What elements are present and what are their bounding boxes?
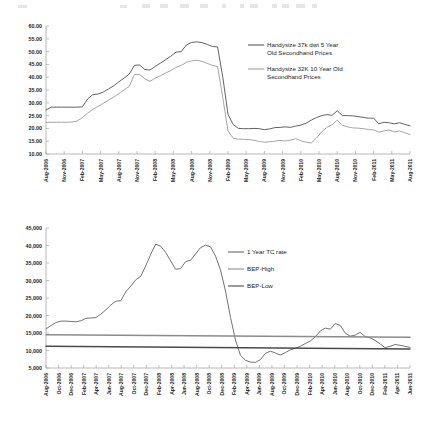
x-axis-tick-label: Jun-2008	[181, 373, 187, 395]
x-axis-tick-label: Feb-2008	[156, 373, 162, 395]
toolbar-icon-fragment	[222, 4, 226, 8]
y-axis-tick-label: 40,000	[26, 243, 43, 249]
x-axis-tick-label: Aug-2010	[334, 159, 340, 182]
x-axis-tick-label: Aug-2011	[407, 159, 413, 182]
y-axis-tick-label: 30,000	[26, 278, 43, 284]
x-axis-tick-label: May-2011	[389, 159, 395, 182]
x-axis-tick-label: Nov-2007	[134, 159, 140, 182]
partial-toolbar-strip	[0, 0, 430, 9]
y-axis-tick-label: 30.00	[29, 100, 43, 106]
x-axis-tick-label: Nov-2010	[352, 159, 358, 182]
x-axis-tick-label: Apr-2009	[244, 373, 250, 395]
x-axis-tick-label: Aug-2006	[43, 373, 49, 396]
toolbar-icon-fragment	[312, 4, 317, 8]
x-axis-tick-label: Aug-2007	[116, 159, 122, 182]
y-axis-tick-label: 15.00	[29, 138, 43, 144]
y-axis-tick-label: 5,000	[29, 365, 43, 371]
toolbar-icon-fragment	[142, 4, 150, 8]
x-axis-tick-label: Apr-2011	[394, 373, 400, 395]
toolbar-icon-fragment	[296, 4, 305, 8]
series-line-1	[46, 244, 410, 362]
y-axis-tick-label: 20.00	[29, 125, 43, 131]
chart-handysize-secondhand-prices: 10.0015.0020.0025.0030.0035.0040.0045.00…	[0, 14, 430, 218]
y-axis-tick-label: 40.00	[29, 74, 43, 80]
y-axis-tick-label: 20,000	[26, 313, 43, 319]
x-axis-tick-label: Apr-2007	[93, 373, 99, 395]
x-axis-tick-label: Dec-2009	[294, 373, 300, 396]
x-axis-tick-label: May-2009	[243, 159, 249, 182]
toolbar-icon-fragment	[160, 4, 168, 8]
legend-label-1: Handysize 37k dwt 5 Year	[267, 41, 338, 48]
y-axis-tick-label: 25.00	[29, 113, 43, 119]
x-axis-tick-label: Dec-2007	[143, 373, 149, 396]
legend-label-2: BEP-High	[247, 265, 275, 272]
x-axis-tick-label: Nov-2009	[280, 159, 286, 182]
x-axis-tick-label: Feb-2009	[225, 159, 231, 181]
x-axis-tick-label: Feb-2011	[371, 159, 377, 181]
chart-page: 10.0015.0020.0025.0030.0035.0040.0045.00…	[0, 0, 430, 436]
x-axis-tick-label: Aug-2008	[194, 373, 200, 396]
legend-label-2: Secondhand Prices	[267, 73, 321, 80]
x-axis-tick-label: Dec-2008	[219, 373, 225, 396]
x-axis-tick-label: Apr-2008	[169, 373, 175, 395]
x-axis-tick-label: Apr-2010	[319, 373, 325, 395]
chart-one-canvas: 10.0015.0020.0025.0030.0035.0040.0045.00…	[0, 14, 430, 218]
toolbar-icon-fragment	[240, 4, 244, 8]
legend-label-1: Old Secondhand Prices	[267, 49, 332, 56]
x-axis-tick-label: Aug-2009	[269, 373, 275, 396]
y-axis-tick-label: 50.00	[29, 49, 43, 55]
x-axis-tick-label: Nov-2006	[61, 159, 67, 182]
toolbar-icon-fragment	[282, 4, 289, 8]
y-axis-tick-label: 45,000	[26, 225, 43, 231]
y-axis-tick-label: 10,000	[26, 348, 43, 354]
x-axis-tick-label: May-2008	[170, 159, 176, 182]
toolbar-icon-fragment	[272, 4, 277, 8]
y-axis-tick-label: 35.00	[29, 87, 43, 93]
series-line-1	[46, 42, 410, 130]
x-axis-tick-label: Feb-2010	[298, 159, 304, 181]
y-axis-tick-label: 15,000	[26, 330, 43, 336]
toolbar-icon-fragment	[250, 4, 258, 8]
legend-label-1: 1 Year TC rate	[247, 248, 287, 255]
x-axis-tick-label: Oct-2009	[281, 373, 287, 395]
y-axis-tick-label: 55.00	[29, 36, 43, 42]
legend-label-2: Handysize 32K 10 Year Old	[267, 65, 343, 72]
x-axis-tick-label: Feb-2010	[307, 373, 313, 395]
x-axis-tick-label: Nov-2008	[207, 159, 213, 182]
series-line-2	[46, 60, 410, 143]
toolbar-icon-fragment	[18, 5, 27, 8]
legend-label-3: BEP-Low	[247, 282, 273, 289]
x-axis-tick-label: Oct-2008	[206, 373, 212, 395]
x-axis-tick-label: Dec-2006	[68, 373, 74, 396]
y-axis-tick-label: 35,000	[26, 260, 43, 266]
y-axis-tick-label: 10.00	[29, 151, 43, 157]
x-axis-tick-label: Feb-2009	[231, 373, 237, 395]
x-axis-tick-label: Feb-2008	[152, 159, 158, 181]
x-axis-tick-label: May-2007	[98, 159, 104, 182]
x-axis-tick-label: Jun-2009	[256, 373, 262, 395]
y-axis-tick-label: 60.00	[29, 23, 43, 29]
x-axis-tick-label: Feb-2011	[382, 373, 388, 395]
x-axis-tick-label: Aug-2006	[43, 159, 49, 182]
x-axis-tick-label: Feb-2007	[81, 373, 87, 395]
x-axis-tick-label: Feb-2007	[79, 159, 85, 181]
toolbar-icon-fragment	[180, 4, 189, 8]
y-axis-tick-label: 45.00	[29, 61, 43, 67]
chart-two-canvas: 5,00010,00015,00020,00025,00030,00035,00…	[0, 220, 430, 432]
x-axis-tick-label: Oct-2010	[357, 373, 363, 395]
x-axis-tick-label: Jun-2007	[106, 373, 112, 395]
x-axis-tick-label: Dec-2010	[369, 373, 375, 396]
y-axis-tick-label: 25,000	[26, 295, 43, 301]
series-line-3	[46, 346, 410, 349]
x-axis-tick-label: May-2010	[316, 159, 322, 182]
chart-one-year-tc-rate-vs-bep: 5,00010,00015,00020,00025,00030,00035,00…	[0, 220, 430, 432]
x-axis-tick-label: Oct-2006	[56, 373, 62, 395]
toolbar-icon-fragment	[120, 5, 127, 8]
x-axis-tick-label: Jun-2010	[332, 373, 338, 395]
x-axis-tick-label: Aug-2009	[261, 159, 267, 182]
toolbar-icon-fragment	[200, 4, 208, 8]
x-axis-tick-label: Aug-2010	[344, 373, 350, 396]
x-axis-tick-label: Oct-2007	[131, 373, 137, 395]
x-axis-tick-label: Aug-2007	[118, 373, 124, 396]
x-axis-tick-label: Aug-2008	[189, 159, 195, 182]
